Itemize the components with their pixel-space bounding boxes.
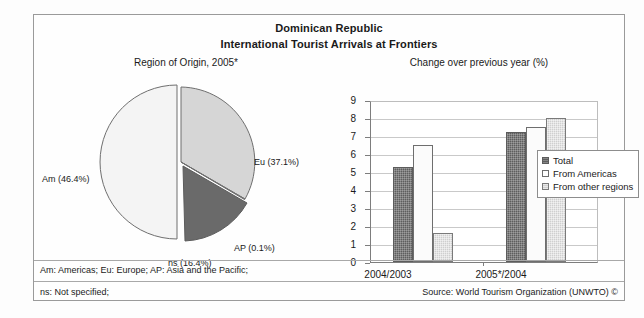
legend-swatch-americas-icon bbox=[542, 170, 549, 177]
bar-chart-panel: Change over previous year (%) 9 8 7 6 5 … bbox=[334, 57, 624, 262]
y-tick-label-8: 8 bbox=[336, 113, 356, 124]
bar-americas-2004 bbox=[413, 145, 433, 262]
bar-plot-area: Total From Americas From other regions bbox=[370, 101, 598, 263]
legend-item-total: Total bbox=[542, 154, 633, 167]
bar-other-2004 bbox=[433, 233, 453, 262]
bar-chart-legend: Total From Americas From other regions bbox=[537, 150, 639, 198]
pie-chart-title: Region of Origin, 2005* bbox=[36, 57, 336, 68]
bar-total-2004 bbox=[393, 167, 413, 262]
pie-chart-graphic bbox=[98, 82, 260, 244]
y-tick-label-5: 5 bbox=[336, 167, 356, 178]
legend-swatch-total-icon bbox=[542, 157, 549, 164]
figure-root: Dominican Republic International Tourist… bbox=[0, 0, 644, 318]
y-tick-label-7: 7 bbox=[336, 131, 356, 142]
y-tick-label-2: 2 bbox=[336, 221, 356, 232]
bar-chart-title: Change over previous year (%) bbox=[334, 57, 624, 68]
legend-label-americas: From Americas bbox=[553, 168, 617, 179]
legend-swatch-other-regions-icon bbox=[542, 183, 549, 190]
y-tick-label-9: 9 bbox=[336, 95, 356, 106]
x-axis-group-separator bbox=[483, 262, 484, 266]
pie-label-eu: Eu (37.1%) bbox=[254, 157, 299, 167]
pie-svg bbox=[98, 82, 260, 244]
source-note: Source: World Tourism Organization (UNWT… bbox=[422, 287, 618, 297]
figure-frame: Dominican Republic International Tourist… bbox=[33, 14, 625, 301]
page-title: Dominican Republic bbox=[34, 22, 624, 34]
x-tick-label-2004: 2004/2003 bbox=[348, 269, 428, 280]
footer-divider-top bbox=[34, 260, 624, 261]
bar-total-2005 bbox=[506, 132, 526, 262]
y-tick-label-4: 4 bbox=[336, 185, 356, 196]
y-tick-mark-0 bbox=[365, 263, 370, 264]
footnote-abbreviations: Am: Americas; Eu: Europe; AP: Asia and t… bbox=[40, 265, 248, 275]
x-tick-label-2005: 2005*/2004 bbox=[461, 269, 541, 280]
legend-item-other-regions: From other regions bbox=[542, 180, 633, 193]
pie-label-ap: AP (0.1%) bbox=[234, 243, 275, 253]
footer-divider-bottom bbox=[34, 281, 624, 282]
legend-label-total: Total bbox=[553, 155, 573, 166]
footnote-ns: ns: Not specified; bbox=[40, 287, 109, 297]
pie-chart-panel: Region of Origin, 2005* Eu (37.1%) Am (4… bbox=[36, 57, 336, 257]
pie-label-am: Am (46.4%) bbox=[42, 174, 90, 184]
page-subtitle: International Tourist Arrivals at Fronti… bbox=[34, 38, 624, 50]
legend-label-other-regions: From other regions bbox=[553, 181, 633, 192]
pie-slice-am bbox=[100, 85, 177, 239]
y-tick-label-3: 3 bbox=[336, 203, 356, 214]
legend-item-americas: From Americas bbox=[542, 167, 633, 180]
y-tick-label-6: 6 bbox=[336, 149, 356, 160]
y-tick-label-1: 1 bbox=[336, 239, 356, 250]
y-tick-label-0: 0 bbox=[336, 257, 356, 268]
